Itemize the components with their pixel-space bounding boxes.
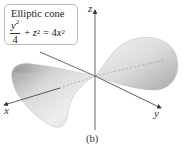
z-axis-label: z <box>88 2 92 14</box>
eq-x-exp: 2 <box>61 28 65 36</box>
eq-equals: = <box>43 27 49 38</box>
eq-z-exp: 2 <box>37 28 41 36</box>
eq-y-exp: 2 <box>16 18 20 26</box>
eq-plus: + <box>24 27 30 38</box>
left-nappe <box>12 64 95 128</box>
eq-denominator: 4 <box>12 34 17 46</box>
figure-caption: (b) <box>86 133 98 144</box>
x-axis-label: x <box>4 104 9 116</box>
equation-label-box: Elliptic cone y2 4 + z2 = 4x2 <box>4 4 78 45</box>
equation: y2 4 + z2 = 4x2 <box>10 20 65 44</box>
equation-fraction: y2 4 <box>10 19 20 45</box>
elliptic-cone-figure: Elliptic cone y2 4 + z2 = 4x2 z x y (b) <box>0 0 183 152</box>
y-axis-label: y <box>154 107 159 119</box>
